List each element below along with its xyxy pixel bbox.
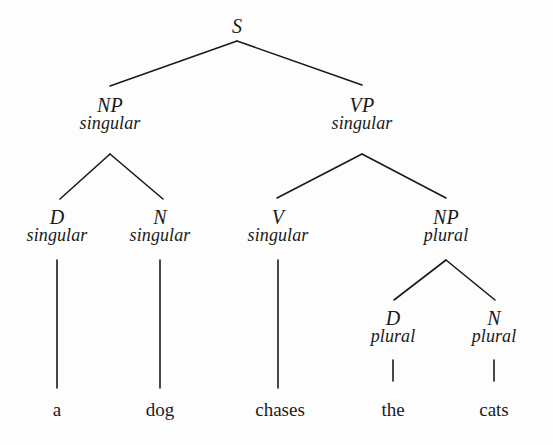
syntax-tree-figure: S NP singular VP singular D singular N s… <box>0 0 553 445</box>
node-feature-label: plural <box>424 226 469 244</box>
tree-node-s: S <box>232 16 242 36</box>
tree-node-np-subject: NP singular <box>80 95 141 133</box>
tree-edge-vp-to-np <box>362 154 446 198</box>
terminal-word: a <box>53 399 61 421</box>
tree-edge-np-to-n <box>110 154 163 199</box>
terminal-word: chases <box>255 399 305 421</box>
node-category-label: D <box>371 308 416 328</box>
tree-edge-vp-to-v <box>277 154 362 198</box>
tree-node-vp: VP singular <box>332 95 393 133</box>
node-feature-label: singular <box>27 226 88 244</box>
node-feature-label: singular <box>248 226 309 244</box>
terminal-word: dog <box>146 399 175 421</box>
node-category-label: S <box>232 16 242 36</box>
tree-node-np-object: NP plural <box>424 207 469 245</box>
terminal-word: the <box>381 399 404 421</box>
tree-edge-npobj-to-d <box>394 260 446 300</box>
tree-edge-s-to-vp <box>237 41 362 85</box>
tree-node-d-singular: D singular <box>27 207 88 245</box>
node-feature-label: plural <box>472 327 517 345</box>
tree-node-n-plural: N plural <box>472 308 517 346</box>
tree-node-v-singular: V singular <box>248 207 309 245</box>
node-feature-label: singular <box>130 226 191 244</box>
node-category-label: N <box>130 207 191 227</box>
node-category-label: NP <box>424 207 469 227</box>
node-category-label: N <box>472 308 517 328</box>
node-category-label: NP <box>80 95 141 115</box>
node-category-label: D <box>27 207 88 227</box>
node-feature-label: singular <box>332 114 393 132</box>
tree-node-n-singular: N singular <box>130 207 191 245</box>
node-feature-label: singular <box>80 114 141 132</box>
node-category-label: VP <box>332 95 393 115</box>
node-feature-label: plural <box>371 327 416 345</box>
tree-edge-np-to-d <box>60 154 110 199</box>
tree-edge-s-to-np <box>110 41 237 86</box>
tree-node-d-plural: D plural <box>371 308 416 346</box>
terminal-word: cats <box>479 399 509 421</box>
node-category-label: V <box>248 207 309 227</box>
tree-edge-npobj-to-n <box>446 260 495 300</box>
